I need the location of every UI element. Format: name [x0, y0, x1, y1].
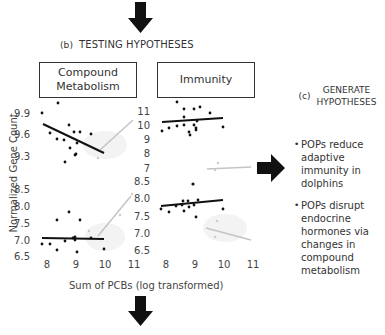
chart-immunity-top — [161, 101, 251, 172]
hypothesis-item: • POPs reduce adaptive immunity in dolph… — [294, 138, 384, 190]
hypothesis-item: • POPs disrupt endocrine hormones via ch… — [294, 199, 384, 277]
down-arrow-icon-bottom — [128, 296, 153, 326]
right-arrow-icon — [257, 154, 285, 182]
bullet-icon: • — [294, 138, 301, 190]
section-c-tag: (c) — [299, 90, 311, 102]
bullet-icon: • — [294, 199, 301, 277]
hypotheses-list: • POPs reduce adaptive immunity in dolph… — [294, 138, 384, 286]
section-c-title: (c) GENERATE HYPOTHESES — [290, 84, 385, 108]
